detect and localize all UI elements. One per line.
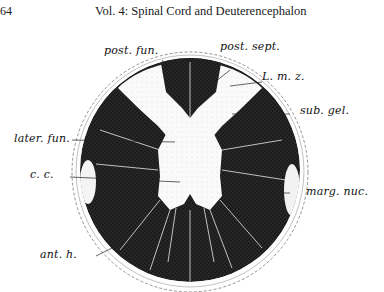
label-ant-h: ant. h.	[40, 248, 77, 261]
label-post-sept: post. sept.	[220, 40, 280, 53]
label-sub-gel: sub. gel.	[300, 104, 349, 117]
label-later-fun: later. fun.	[14, 132, 70, 145]
label-marg-nuc: marg. nuc.	[306, 185, 368, 198]
label-cc: c. c.	[30, 168, 54, 181]
label-lmz: L. m. z.	[262, 70, 305, 83]
label-post-fun: post. fun.	[104, 44, 158, 57]
